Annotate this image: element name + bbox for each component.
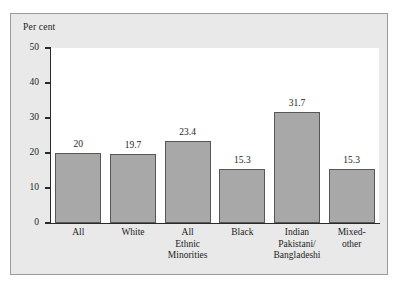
bar: 19.7	[110, 154, 156, 223]
y-tick-label: 10	[13, 182, 39, 192]
x-category-label-line: White	[102, 227, 165, 239]
bar: 23.4	[165, 141, 211, 223]
x-category-label-line: Ethnic	[156, 239, 219, 251]
y-tick-mark	[45, 152, 50, 153]
y-tick-mark	[45, 222, 50, 223]
bar-value-label: 19.7	[110, 140, 156, 150]
y-tick-label: 30	[13, 112, 39, 122]
y-tick-label: 20	[13, 147, 39, 157]
x-category-label: White	[102, 227, 165, 239]
x-category-label: Mixed-other	[320, 227, 383, 250]
y-tick-label: 40	[13, 77, 39, 87]
bar: 15.3	[219, 169, 265, 223]
bar-value-label: 20	[55, 139, 101, 149]
y-axis-line	[50, 47, 51, 224]
bar-rect	[274, 112, 320, 223]
x-category-label: IndianPakistani/Bangladeshi	[266, 227, 329, 262]
y-tick-mark	[45, 82, 50, 83]
bar-value-label: 23.4	[165, 127, 211, 137]
chart-panel: Per cent 01020304050 2019.723.415.331.71…	[10, 13, 388, 275]
x-category-label-line: Mixed-	[320, 227, 383, 239]
bar-value-label: 15.3	[219, 155, 265, 165]
y-axis-title: Per cent	[23, 22, 55, 32]
x-category-label: AllEthnicMinorities	[156, 227, 219, 262]
x-category-label: Black	[211, 227, 274, 239]
bar-rect	[219, 169, 265, 223]
bar-rect	[165, 141, 211, 223]
y-tick-mark	[45, 117, 50, 118]
bar-rect	[329, 169, 375, 223]
x-category-label-line: other	[320, 239, 383, 251]
bar-rect	[110, 154, 156, 223]
y-tick-label: 0	[13, 217, 39, 227]
x-category-label-line: Black	[211, 227, 274, 239]
y-tick-mark	[45, 187, 50, 188]
x-category-label-line: Indian	[266, 227, 329, 239]
x-category-label-line: Minorities	[156, 250, 219, 262]
bar: 20	[55, 153, 101, 223]
x-category-label-line: All	[156, 227, 219, 239]
bar: 15.3	[329, 169, 375, 223]
x-category-label-line: All	[47, 227, 110, 239]
y-tick-label: 50	[13, 42, 39, 52]
x-category-label-line: Pakistani/	[266, 239, 329, 251]
bar: 31.7	[274, 112, 320, 223]
x-axis-line	[50, 223, 380, 224]
x-category-label-line: Bangladeshi	[266, 250, 329, 262]
bar-value-label: 31.7	[274, 98, 320, 108]
x-category-label: All	[47, 227, 110, 239]
bar-value-label: 15.3	[329, 155, 375, 165]
y-tick-mark	[45, 47, 50, 48]
bar-rect	[55, 153, 101, 223]
